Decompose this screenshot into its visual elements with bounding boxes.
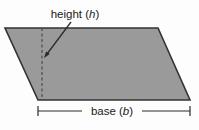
base-label-suffix: ) (129, 105, 133, 117)
diagram-canvas: height (h) base (b) (0, 0, 199, 130)
height-label: height (h) (51, 8, 100, 20)
parallelogram-shape (5, 28, 190, 100)
base-label: base (b) (91, 105, 133, 117)
height-label-suffix: ) (95, 8, 99, 20)
base-label-prefix: base ( (91, 105, 123, 117)
parallelogram-diagram: height (h) base (b) (0, 0, 199, 130)
height-label-prefix: height ( (51, 8, 90, 20)
